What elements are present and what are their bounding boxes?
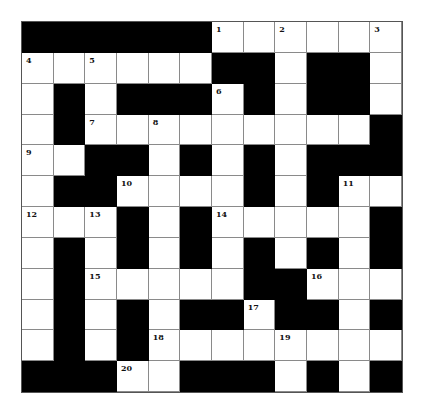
answer-cell[interactable] xyxy=(307,207,339,238)
answer-cell[interactable]: 17 xyxy=(244,300,276,331)
clue-number: 10 xyxy=(121,179,132,187)
answer-cell[interactable] xyxy=(180,330,212,361)
answer-cell[interactable]: 20 xyxy=(117,361,149,392)
answer-cell[interactable] xyxy=(339,115,371,146)
answer-cell[interactable] xyxy=(370,330,402,361)
block-cell xyxy=(85,145,117,176)
answer-cell[interactable] xyxy=(212,115,244,146)
answer-cell[interactable]: 10 xyxy=(117,176,149,207)
answer-cell[interactable] xyxy=(149,53,181,84)
answer-cell[interactable] xyxy=(339,269,371,300)
answer-cell[interactable] xyxy=(244,330,276,361)
answer-cell[interactable] xyxy=(149,145,181,176)
block-cell xyxy=(117,238,149,269)
answer-cell[interactable] xyxy=(149,300,181,331)
answer-cell[interactable] xyxy=(85,300,117,331)
answer-cell[interactable] xyxy=(117,53,149,84)
answer-cell[interactable] xyxy=(22,238,54,269)
answer-cell[interactable] xyxy=(275,176,307,207)
answer-cell[interactable]: 15 xyxy=(85,269,117,300)
block-cell xyxy=(22,22,54,53)
answer-cell[interactable] xyxy=(22,176,54,207)
answer-cell[interactable] xyxy=(275,53,307,84)
answer-cell[interactable] xyxy=(22,269,54,300)
block-cell xyxy=(307,300,339,331)
answer-cell[interactable]: 13 xyxy=(85,207,117,238)
answer-cell[interactable] xyxy=(212,238,244,269)
answer-cell[interactable] xyxy=(307,115,339,146)
answer-cell[interactable] xyxy=(370,176,402,207)
answer-cell[interactable] xyxy=(370,53,402,84)
answer-cell[interactable] xyxy=(180,176,212,207)
answer-cell[interactable]: 4 xyxy=(22,53,54,84)
answer-cell[interactable] xyxy=(180,53,212,84)
block-cell xyxy=(180,145,212,176)
block-cell xyxy=(370,238,402,269)
answer-cell[interactable] xyxy=(275,145,307,176)
answer-cell[interactable] xyxy=(149,207,181,238)
answer-cell[interactable] xyxy=(180,115,212,146)
answer-cell[interactable] xyxy=(22,115,54,146)
answer-cell[interactable]: 9 xyxy=(22,145,54,176)
answer-cell[interactable] xyxy=(244,115,276,146)
answer-cell[interactable] xyxy=(180,269,212,300)
answer-cell[interactable]: 1 xyxy=(212,22,244,53)
answer-cell[interactable] xyxy=(149,269,181,300)
answer-cell[interactable] xyxy=(85,330,117,361)
answer-cell[interactable] xyxy=(54,207,86,238)
block-cell xyxy=(244,176,276,207)
answer-cell[interactable] xyxy=(307,330,339,361)
answer-cell[interactable] xyxy=(339,238,371,269)
answer-cell[interactable] xyxy=(149,238,181,269)
answer-cell[interactable] xyxy=(339,207,371,238)
answer-cell[interactable] xyxy=(339,300,371,331)
answer-cell[interactable]: 18 xyxy=(149,330,181,361)
answer-cell[interactable]: 14 xyxy=(212,207,244,238)
answer-cell[interactable] xyxy=(212,330,244,361)
answer-cell[interactable] xyxy=(212,145,244,176)
answer-cell[interactable]: 8 xyxy=(149,115,181,146)
answer-cell[interactable] xyxy=(244,207,276,238)
answer-cell[interactable] xyxy=(212,176,244,207)
answer-cell[interactable] xyxy=(275,361,307,392)
answer-cell[interactable] xyxy=(275,207,307,238)
answer-cell[interactable] xyxy=(339,330,371,361)
answer-cell[interactable] xyxy=(54,53,86,84)
answer-cell[interactable] xyxy=(244,22,276,53)
clue-number: 3 xyxy=(374,25,380,33)
answer-cell[interactable]: 7 xyxy=(85,115,117,146)
answer-cell[interactable]: 16 xyxy=(307,269,339,300)
answer-cell[interactable]: 3 xyxy=(370,22,402,53)
answer-cell[interactable] xyxy=(307,22,339,53)
block-cell xyxy=(370,145,402,176)
answer-cell[interactable] xyxy=(85,84,117,115)
answer-cell[interactable]: 6 xyxy=(212,84,244,115)
answer-cell[interactable] xyxy=(212,269,244,300)
answer-cell[interactable] xyxy=(22,300,54,331)
answer-cell[interactable] xyxy=(370,84,402,115)
answer-cell[interactable] xyxy=(54,145,86,176)
answer-cell[interactable] xyxy=(149,176,181,207)
answer-cell[interactable] xyxy=(275,238,307,269)
answer-cell[interactable] xyxy=(117,269,149,300)
answer-cell[interactable]: 12 xyxy=(22,207,54,238)
answer-cell[interactable] xyxy=(85,238,117,269)
block-cell xyxy=(370,300,402,331)
answer-cell[interactable] xyxy=(22,330,54,361)
block-cell xyxy=(54,300,86,331)
answer-cell[interactable]: 11 xyxy=(339,176,371,207)
answer-cell[interactable] xyxy=(149,361,181,392)
answer-cell[interactable]: 2 xyxy=(275,22,307,53)
answer-cell[interactable] xyxy=(22,84,54,115)
answer-cell[interactable] xyxy=(275,115,307,146)
block-cell xyxy=(244,238,276,269)
answer-cell[interactable] xyxy=(117,115,149,146)
block-cell xyxy=(85,22,117,53)
answer-cell[interactable] xyxy=(339,22,371,53)
answer-cell[interactable]: 19 xyxy=(275,330,307,361)
answer-cell[interactable]: 5 xyxy=(85,53,117,84)
answer-cell[interactable] xyxy=(339,361,371,392)
clue-number: 12 xyxy=(26,210,37,218)
answer-cell[interactable] xyxy=(275,84,307,115)
answer-cell[interactable] xyxy=(370,269,402,300)
